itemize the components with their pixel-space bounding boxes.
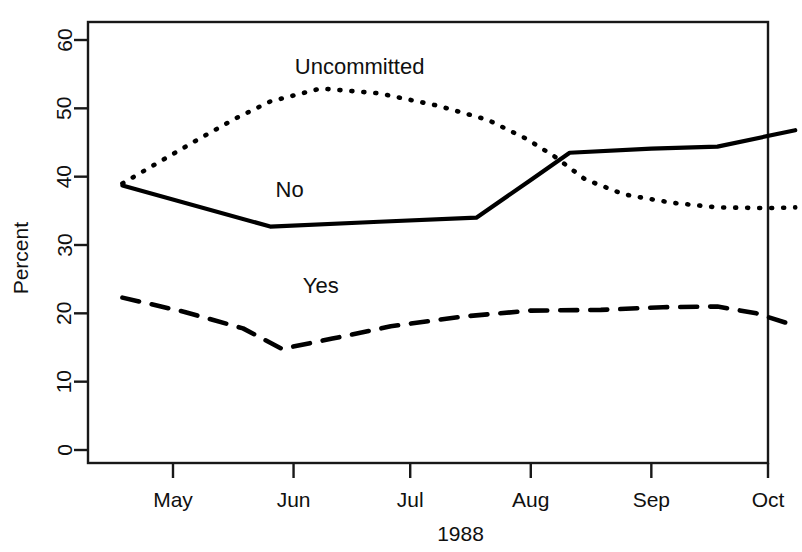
line-chart: 0102030405060PercentMayJunJulAugSepOct19… xyxy=(0,0,802,552)
series-label-uncommitted: Uncommitted xyxy=(295,54,425,79)
chart-figure: 0102030405060PercentMayJunJulAugSepOct19… xyxy=(0,0,802,552)
y-tick-label: 50 xyxy=(53,97,76,120)
x-tick-label: Oct xyxy=(752,488,785,511)
y-tick-label: 60 xyxy=(53,28,76,51)
x-tick-label: Jul xyxy=(397,488,424,511)
series-line-no xyxy=(122,130,795,226)
y-tick-label: 0 xyxy=(53,444,76,456)
x-tick-label: Aug xyxy=(512,488,549,511)
series-label-yes: Yes xyxy=(303,273,339,298)
y-axis: 0102030405060 xyxy=(53,28,89,456)
y-tick-label: 30 xyxy=(53,233,76,256)
series-line-yes xyxy=(122,298,795,349)
x-tick-label: May xyxy=(153,488,193,511)
y-tick-label: 40 xyxy=(53,165,76,188)
x-tick-label: Sep xyxy=(633,488,670,511)
x-tick-label: Jun xyxy=(277,488,311,511)
x-axis-title: 1988 xyxy=(437,522,484,545)
y-tick-label: 10 xyxy=(53,370,76,393)
plot-frame xyxy=(88,22,768,463)
series-label-no: No xyxy=(276,177,304,202)
y-axis-title: Percent xyxy=(9,222,32,295)
y-tick-label: 20 xyxy=(53,302,76,325)
x-axis: MayJunJulAugSepOct xyxy=(153,463,784,511)
